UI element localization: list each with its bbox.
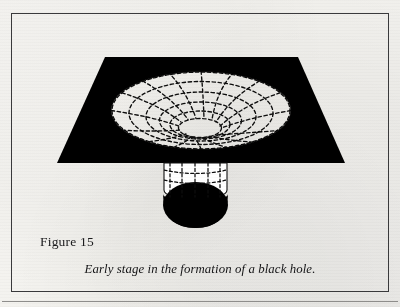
figure-border [11, 13, 389, 292]
page-rule [2, 301, 398, 302]
figure-page: Figure 15 Early stage in the formation o… [0, 0, 400, 307]
figure-label: Figure 15 [40, 234, 94, 250]
figure-caption: Early stage in the formation of a black … [11, 262, 389, 277]
